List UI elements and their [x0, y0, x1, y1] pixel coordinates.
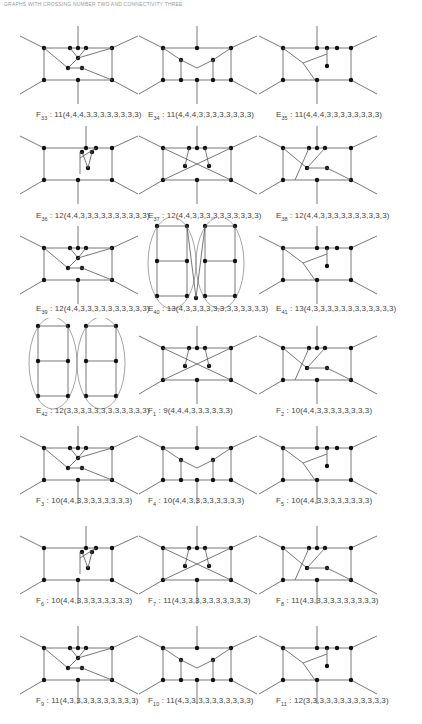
figure-graph	[16, 18, 146, 110]
figure-label: F6 : 10(4,4,3,3,3,3,3,3,3,3)	[36, 596, 132, 607]
figure-label: F10 : 11(4,3,3,3,3,3,3,3,3,3,3)	[148, 696, 254, 707]
degree-formula: 10(4,4,3,3,3,3,3,3,3,3)	[291, 496, 372, 505]
graph-diagram	[255, 318, 385, 410]
figure-label: F11 : 12(3,3,3,3,3,3,3,3,3,3,3,3)	[276, 696, 389, 707]
degree-formula: 10(4,4,3,3,3,3,3,3,3,3)	[163, 496, 244, 505]
degree-formula: 10(4,4,3,3,3,3,3,3,3,3)	[51, 596, 132, 605]
figure-label: E39 : 12(4,4,3,3,3,3,3,3,3,3,3,3)	[36, 304, 150, 315]
degree-formula: 10(4,4,3,3,3,3,3,3,3,3)	[291, 406, 372, 415]
graph-diagram	[16, 118, 146, 210]
degree-formula: 13(4,3,3,3,3,3,3,3,3,3,3,3,3)	[295, 304, 397, 313]
running-header: GRAPHS WITH CROSSING NUMBER TWO AND CONN…	[4, 1, 284, 7]
graph-diagram	[16, 18, 146, 110]
figure-label: E42 : 12(3,3,3,3,3,3,3,3,3,3,3,3)	[36, 406, 150, 417]
figure-graph	[16, 118, 146, 210]
graph-diagram	[255, 218, 385, 310]
figure-label: F8 : 11(4,3,3,3,3,3,3,3,3,3,3)	[276, 596, 378, 607]
figure-graph	[135, 218, 265, 310]
figure-graph	[255, 218, 385, 310]
figure-label: F1 : 9(4,4,4,3,3,3,3,3,3)	[148, 406, 233, 417]
graph-diagram	[255, 18, 385, 110]
figure-graph	[16, 218, 146, 310]
graph-diagram	[255, 118, 385, 210]
figure-graph	[16, 318, 146, 410]
figure-graph	[255, 118, 385, 210]
figure-graph	[135, 118, 265, 210]
figure-label: E40 : 13(4,3,3,3,3,3,3,3,3,3,3,3,3)	[148, 304, 268, 315]
degree-formula: 11(4,3,3,3,3,3,3,3,3,3,3)	[166, 696, 253, 705]
degree-formula: 10(4,4,3,3,3,3,3,3,3,3)	[51, 496, 132, 505]
degree-formula: 12(3,3,3,3,3,3,3,3,3,3,3,3)	[294, 696, 389, 705]
graph-diagram	[135, 18, 265, 110]
figure-label: F5 : 10(4,4,3,3,3,3,3,3,3,3)	[276, 496, 372, 507]
figure-graph	[255, 18, 385, 110]
graph-diagram	[135, 218, 265, 310]
figure-label: E41 : 13(4,3,3,3,3,3,3,3,3,3,3,3,3)	[276, 304, 396, 315]
figure-graph	[255, 318, 385, 410]
degree-formula: 11(4,3,3,3,3,3,3,3,3,3,3)	[163, 596, 250, 605]
figure-label: F4 : 10(4,4,3,3,3,3,3,3,3,3)	[148, 496, 244, 507]
degree-formula: 13(4,3,3,3,3,3,3,3,3,3,3,3,3)	[167, 304, 269, 313]
degree-formula: 11(4,3,3,3,3,3,3,3,3,3,3)	[291, 596, 378, 605]
figure-label: F2 : 10(4,4,3,3,3,3,3,3,3,3)	[276, 406, 372, 417]
label-separator: :	[287, 696, 294, 705]
figure-graph	[135, 318, 265, 410]
figure-label: F7 : 11(4,3,3,3,3,3,3,3,3,3,3)	[148, 596, 250, 607]
figure-label: F9 : 11(4,3,3,3,3,3,3,3,3,3,3)	[36, 696, 138, 707]
degree-formula: 11(4,3,3,3,3,3,3,3,3,3,3)	[51, 696, 138, 705]
graph-diagram	[16, 318, 146, 410]
label-separator: :	[160, 304, 167, 313]
graph-diagram	[16, 218, 146, 310]
graph-diagram	[135, 118, 265, 210]
figure-graph	[135, 18, 265, 110]
label-separator: :	[288, 304, 295, 313]
graph-diagram	[135, 318, 265, 410]
label-separator: :	[48, 406, 55, 415]
figure-label: F3 : 10(4,4,3,3,3,3,3,3,3,3)	[36, 496, 132, 507]
label-separator: :	[48, 304, 55, 313]
degree-formula: 9(4,4,4,3,3,3,3,3,3)	[163, 406, 233, 415]
